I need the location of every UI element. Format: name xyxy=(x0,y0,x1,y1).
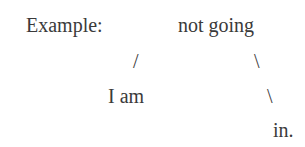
tree-left-child-node: I am xyxy=(108,86,144,106)
left-branch-line: / xyxy=(133,51,139,71)
tree-right-child-node: in. xyxy=(273,120,294,140)
example-tree-figure: Example: not going / \ I am \ in. xyxy=(0,0,305,147)
right-branch-line-lower: \ xyxy=(267,86,273,106)
right-branch-line-upper: \ xyxy=(254,51,260,71)
example-label: Example: xyxy=(26,15,103,35)
tree-root-node: not going xyxy=(178,15,254,35)
